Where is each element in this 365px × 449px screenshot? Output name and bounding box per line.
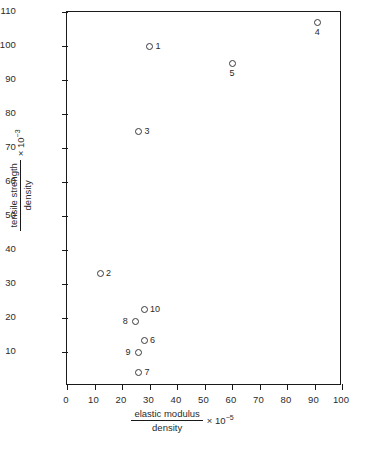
- data-point-5[interactable]: [229, 60, 236, 67]
- y-tick-label-100: 100: [0, 40, 16, 50]
- data-point-label-10: 10: [150, 305, 160, 314]
- x-tick-60: [232, 384, 233, 390]
- data-point-label-9: 9: [126, 348, 131, 357]
- y-tick-90: [62, 80, 68, 81]
- y-tick-10: [62, 352, 68, 353]
- data-point-label-2: 2: [106, 269, 111, 278]
- data-point-label-5: 5: [230, 69, 235, 78]
- x-tick-90: [315, 384, 316, 390]
- y-tick-40: [62, 250, 68, 251]
- data-point-8[interactable]: [132, 318, 139, 325]
- x-axis-fraction: elastic modulus density: [131, 408, 202, 433]
- y-tick-30: [62, 284, 68, 285]
- x-tick-10: [95, 384, 96, 390]
- x-tick-label-100: 100: [324, 395, 358, 405]
- data-point-3[interactable]: [135, 128, 142, 135]
- data-point-label-3: 3: [145, 127, 150, 136]
- x-axis-denominator: density: [149, 421, 185, 433]
- y-tick-70: [62, 148, 68, 149]
- x-tick-30: [150, 384, 151, 390]
- y-axis-multiplier-text: × 10: [15, 137, 26, 156]
- y-tick-50: [62, 216, 68, 217]
- data-point-label-7: 7: [145, 368, 150, 377]
- y-tick-label-110: 110: [0, 6, 16, 16]
- data-point-1[interactable]: [146, 43, 153, 50]
- y-tick-60: [62, 182, 68, 183]
- y-axis-denominator: density: [21, 177, 33, 213]
- data-point-label-8: 8: [123, 317, 128, 326]
- plot-area: 12345678910: [66, 11, 341, 385]
- y-tick-label-20: 20: [0, 312, 16, 322]
- x-tick-40: [177, 384, 178, 390]
- y-axis-title: tensile strength density × 10−3: [0, 90, 40, 270]
- x-tick-50: [205, 384, 206, 390]
- y-tick-label-30: 30: [0, 278, 16, 288]
- x-axis-multiplier-text: × 10: [207, 416, 226, 427]
- data-point-label-6: 6: [150, 336, 155, 345]
- y-axis-exponent: −3: [14, 129, 21, 137]
- y-axis-multiplier: × 10−3: [14, 129, 26, 156]
- y-tick-20: [62, 318, 68, 319]
- data-point-9[interactable]: [135, 349, 142, 356]
- x-axis-title: elastic modulus density × 10−5: [0, 408, 365, 433]
- scatter-plot-figure: 12345678910 102030405060708090100110 010…: [0, 0, 365, 449]
- x-tick-100: [342, 384, 343, 390]
- y-axis-fraction: tensile strength density: [8, 160, 33, 230]
- x-tick-20: [122, 384, 123, 390]
- y-axis-numerator: tensile strength: [8, 160, 21, 230]
- x-axis-numerator: elastic modulus: [131, 408, 202, 421]
- data-point-10[interactable]: [141, 306, 148, 313]
- data-point-label-4: 4: [315, 28, 320, 37]
- y-tick-100: [62, 46, 68, 47]
- y-tick-label-90: 90: [0, 74, 16, 84]
- y-tick-110: [62, 12, 68, 13]
- data-point-label-1: 1: [156, 42, 161, 51]
- x-tick-0: [67, 384, 68, 390]
- data-point-6[interactable]: [141, 337, 148, 344]
- x-tick-80: [287, 384, 288, 390]
- x-tick-70: [260, 384, 261, 390]
- x-axis-exponent: −5: [226, 414, 234, 421]
- data-point-2[interactable]: [97, 270, 104, 277]
- y-tick-80: [62, 114, 68, 115]
- x-axis-multiplier: × 10−5: [207, 414, 234, 426]
- data-point-4[interactable]: [314, 19, 321, 26]
- y-tick-label-10: 10: [0, 346, 16, 356]
- data-point-7[interactable]: [135, 369, 142, 376]
